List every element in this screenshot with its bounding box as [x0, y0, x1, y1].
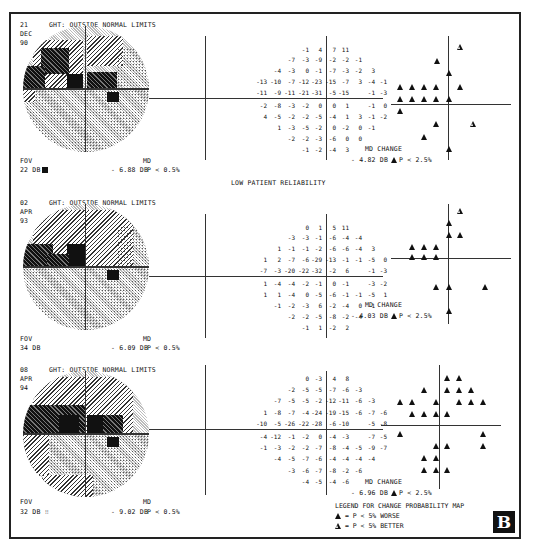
- change-probability-legend: LEGEND FOR CHANGE PROBABILITY MAP = P < …: [335, 501, 464, 531]
- worse-triangle-icon: [335, 513, 341, 519]
- better-triangle-icon: [335, 523, 341, 529]
- total-deviation-probability-map: [149, 206, 259, 336]
- change-probability-map: [381, 359, 511, 489]
- md-probability: P < 0.5%: [147, 167, 180, 174]
- visual-field-panel-1: 21 DEC 90 GHT: OUTSIDE NORMAL LIMITS FOV…: [11, 14, 523, 184]
- fov-value: 22 DB: [20, 167, 41, 174]
- md-change-probability: P < 2.5%: [399, 157, 432, 164]
- test-year: 93: [20, 218, 28, 225]
- test-month: APR: [20, 209, 32, 216]
- fov-label: FOV: [20, 336, 32, 343]
- md-label: MD: [143, 499, 151, 506]
- md-value: - 6.88 DB: [111, 167, 148, 174]
- legend-title: LEGEND FOR CHANGE PROBABILITY MAP: [335, 501, 464, 511]
- greyscale-map: [23, 204, 149, 330]
- change-probability-map: [391, 28, 511, 158]
- md-change-probability: P < 2.5%: [399, 490, 432, 497]
- total-deviation-probability-map: [149, 359, 259, 499]
- md-value: - 9.02 DB: [111, 509, 148, 516]
- fov-value: 34 DB: [20, 345, 41, 352]
- visual-field-panel-3: 08 APR 94 GHT: OUTSIDE NORMAL LIMITS FOV…: [11, 359, 523, 529]
- greyscale-map: [23, 371, 149, 497]
- fov-label: FOV: [20, 158, 32, 165]
- deviation-values-grid: 0 -3 4 8 -2 -5 -5 -7 -6 -3 -7 -5 -5 -2 -…: [251, 363, 381, 493]
- visual-field-printout: 21 DEC 90 GHT: OUTSIDE NORMAL LIMITS FOV…: [9, 12, 521, 539]
- fov-symbol-icon: ∷: [45, 508, 48, 515]
- md-change-value: - 6.96 DB: [351, 490, 388, 497]
- deviation-values-grid: -1 4 7 11 -7 -3 -9 -2 -2 -1 -4 -3 0 -1 -…: [251, 28, 381, 158]
- fov-value: 32 DB: [20, 509, 41, 516]
- reliability-warning: LOW PATIENT RELIABILITY: [231, 180, 326, 187]
- greyscale-map: [23, 26, 149, 152]
- total-deviation-probability-map: [149, 28, 259, 158]
- md-probability: P < 0.5%: [147, 509, 180, 516]
- figure-label: B: [493, 511, 515, 533]
- md-label: MD: [143, 158, 151, 165]
- test-day: 08: [20, 367, 28, 374]
- test-day: 21: [20, 22, 28, 29]
- md-label: MD: [143, 336, 151, 343]
- md-probability: P < 0.5%: [147, 345, 180, 352]
- fov-label: FOV: [20, 499, 32, 506]
- md-change-value: - 4.82 DB: [351, 157, 388, 164]
- test-year: 94: [20, 385, 28, 392]
- worse-triangle-icon: [391, 490, 397, 496]
- test-month: APR: [20, 376, 32, 383]
- change-probability-map: [391, 192, 511, 322]
- visual-field-panel-2: 02 APR 93 GHT: OUTSIDE NORMAL LIMITS FOV…: [11, 192, 523, 362]
- test-month: DEC: [20, 31, 32, 38]
- md-value: - 6.09 DB: [111, 345, 148, 352]
- md-change-value: - 4.03 DB: [351, 313, 388, 320]
- legend-better: = P < 5% BETTER: [345, 522, 404, 530]
- fov-symbol-icon: [42, 167, 48, 173]
- test-year: 90: [20, 40, 28, 47]
- legend-worse: = P < 5% WORSE: [345, 512, 400, 520]
- test-day: 02: [20, 200, 28, 207]
